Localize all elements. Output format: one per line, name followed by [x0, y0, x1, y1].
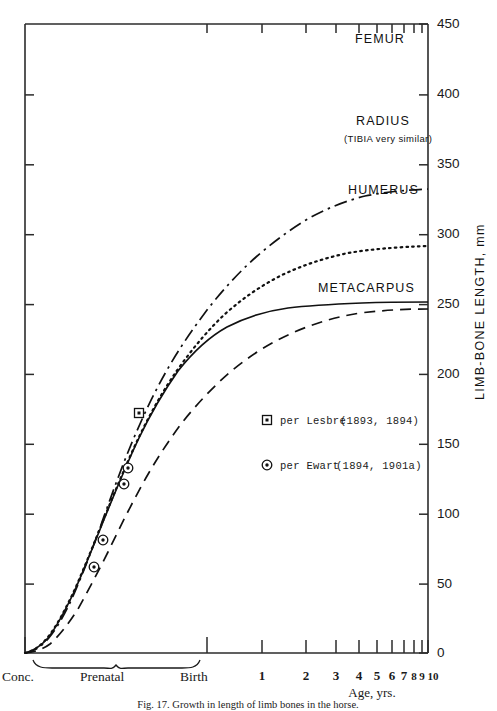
xtick-label-8: 8	[411, 670, 417, 682]
x-axis-title: Age, yrs.	[348, 685, 395, 700]
figure-limb-bone-growth: 450 400 350 300 250 200 150 100 50 0 LIM…	[0, 0, 497, 711]
curve-humerus	[25, 309, 428, 653]
xtick-label-1: 1	[259, 668, 266, 683]
ytick-label-200: 200	[437, 366, 460, 381]
curve-label-metacarpus: METACARPUS	[318, 281, 415, 295]
curve-metacarpus	[25, 302, 428, 653]
ytick-label-0: 0	[437, 645, 445, 660]
y-axis-ticks-left	[25, 95, 34, 584]
ytick-label-300: 300	[437, 226, 460, 241]
curve-label-radius: RADIUS	[356, 114, 410, 128]
xtick-label-9: 9	[419, 670, 425, 682]
ytick-label-450: 450	[437, 16, 460, 31]
curve-radius	[25, 246, 428, 653]
xtick-label-6: 6	[389, 668, 396, 683]
x-axis-ticks-bottom	[25, 637, 428, 653]
xtick-label-7: 7	[401, 668, 408, 683]
curve-sublabel-radius: (TIBIA very similar)	[344, 133, 432, 144]
y-axis-ticks-right: 450 400 350 300 250 200 150 100 50 0	[419, 16, 460, 660]
data-marker-ewart	[119, 479, 129, 489]
legend-years-lesbre: (1893, 1894)	[340, 415, 419, 427]
ytick-label-50: 50	[437, 576, 452, 591]
legend-label-lesbre: per Lesbre	[280, 415, 346, 427]
data-marker-ewart	[89, 562, 99, 572]
label-birth: Birth	[180, 669, 208, 684]
xtick-label-3: 3	[333, 668, 340, 683]
curve-label-humerus: HUMERUS	[348, 183, 419, 197]
xtick-label-10: 10	[428, 670, 440, 682]
legend-item-ewart: per Ewart (1894, 1901a)	[262, 460, 422, 472]
legend: per Lesbre (1893, 1894) per Ewart (1894,…	[262, 415, 422, 472]
xtick-label-4: 4	[356, 668, 363, 683]
ytick-label-250: 250	[437, 296, 460, 311]
prenatal-brace	[33, 660, 200, 668]
ytick-label-350: 350	[437, 156, 460, 171]
ytick-label-150: 150	[437, 436, 460, 451]
curve-label-femur: FEMUR	[355, 32, 405, 46]
xtick-label-5: 5	[374, 668, 381, 683]
legend-label-ewart: per Ewart	[280, 460, 339, 472]
label-conception: Conc.	[2, 669, 34, 684]
xtick-label-2: 2	[303, 668, 310, 683]
data-marker-lesbre	[135, 409, 144, 418]
ytick-label-400: 400	[437, 86, 460, 101]
y-axis-title: LIMB-BONE LENGTH, mm	[473, 223, 487, 400]
chart-svg: 450 400 350 300 250 200 150 100 50 0 LIM…	[0, 0, 497, 711]
x-axis-labels: 1 2 3 4 5 6 7 8 9 10	[259, 668, 439, 683]
legend-years-ewart: (1894, 1901a)	[336, 460, 422, 472]
ytick-label-100: 100	[437, 506, 460, 521]
legend-item-lesbre: per Lesbre (1893, 1894)	[263, 415, 420, 427]
label-prenatal: Prenatal	[80, 669, 124, 684]
figure-caption: Fig. 17. Growth in length of limb bones …	[137, 699, 358, 710]
data-marker-ewart	[98, 535, 108, 545]
data-marker-ewart	[123, 463, 133, 473]
